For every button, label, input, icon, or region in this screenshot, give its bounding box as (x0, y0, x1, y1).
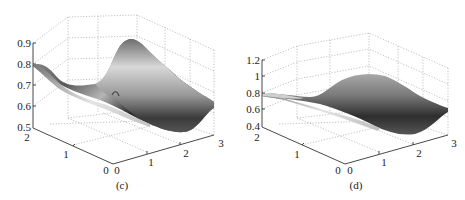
x-tick-d-0: 0 (347, 164, 353, 176)
y-tick-c-0: 0 (103, 164, 109, 176)
y-tick-d-1: 1 (294, 148, 300, 160)
y-tick-c-1: 1 (63, 148, 69, 160)
x-tick-c-3: 3 (218, 137, 224, 149)
figure: 0.9 0.8 0.7 0.6 0.5 2 1 0 0 1 2 3 (c) (0, 0, 465, 200)
surface-c (33, 39, 214, 132)
z-tick-c-1: 0.8 (17, 58, 31, 70)
z-tick-d-3: 0.6 (246, 103, 260, 115)
z-tick-c-3: 0.6 (17, 100, 31, 112)
y-tick-d-0: 0 (335, 164, 341, 176)
x-tick-c-0: 0 (114, 164, 120, 176)
panel-label-c: (c) (116, 179, 129, 192)
z-tick-c-2: 0.7 (17, 79, 31, 91)
panel-c: 0.9 0.8 0.7 0.6 0.5 2 1 0 0 1 2 3 (c) (17, 15, 224, 192)
x-tick-c-1: 1 (148, 156, 154, 168)
x-tick-d-3: 3 (451, 137, 457, 149)
y-tick-c-2: 2 (24, 131, 30, 143)
panel-label-d: (d) (350, 179, 363, 192)
x-tick-c-2: 2 (183, 147, 189, 159)
x-tick-d-1: 1 (381, 156, 387, 168)
z-tick-d-2: 0.8 (246, 87, 260, 99)
surface-d (262, 74, 448, 135)
panel-d: 1.2 1 0.8 0.6 0.4 2 1 0 0 1 2 3 (d) (246, 33, 457, 192)
y-tick-d-2: 2 (254, 131, 260, 143)
x-tick-d-2: 2 (416, 147, 422, 159)
z-tick-d-1: 1 (255, 70, 261, 82)
z-tick-d-0: 1.2 (246, 54, 260, 66)
z-tick-c-0: 0.9 (17, 37, 31, 49)
